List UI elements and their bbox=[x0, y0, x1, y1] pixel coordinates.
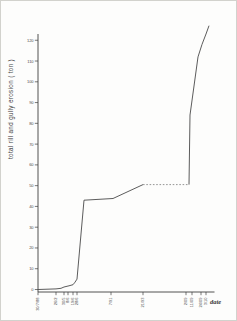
y-tick-label: 80 bbox=[29, 121, 34, 126]
axis-lines bbox=[38, 34, 215, 292]
y-tick-label: 110 bbox=[27, 59, 34, 64]
series-segment-solid bbox=[38, 185, 143, 290]
series-segment-solid bbox=[189, 26, 209, 185]
y-tick-label: 120 bbox=[27, 38, 34, 43]
erosion-line-chart: 0102030405060708090100110120 30/7/8826/2… bbox=[1, 1, 237, 321]
y-tick-label: 30 bbox=[29, 225, 34, 230]
x-tick-date-label: 3/10 bbox=[203, 297, 208, 306]
axes bbox=[38, 34, 215, 292]
y-axis-title: total rill and gully erosion ( ton ) bbox=[7, 59, 15, 159]
y-tick-label: 10 bbox=[29, 266, 34, 271]
y-tick-label: 0 bbox=[31, 287, 34, 292]
y-tick-label: 60 bbox=[29, 162, 34, 167]
x-tick-date-label: 7/91 bbox=[108, 297, 113, 306]
x-tick-date-label: 11/09 bbox=[189, 297, 194, 307]
x-tick-date-label: 2/09 bbox=[183, 297, 188, 306]
scanned-figure-page: 0102030405060708090100110120 30/7/8826/2… bbox=[0, 0, 237, 321]
y-tick-label: 90 bbox=[29, 100, 34, 105]
y-axis-ticks: 0102030405060708090100110120 bbox=[27, 38, 38, 292]
x-tick-date-label: 21/93 bbox=[140, 297, 145, 308]
y-tick-label: 100 bbox=[27, 79, 34, 84]
x-axis-ticks: 30/7/8826/230/58/619/628/67/9121/932/091… bbox=[35, 292, 208, 311]
y-tick-label: 50 bbox=[29, 183, 34, 188]
x-axis-title: date bbox=[210, 298, 221, 305]
x-tick-date-label: 26/2 bbox=[53, 297, 58, 306]
y-tick-label: 20 bbox=[29, 245, 34, 250]
erosion-series-line bbox=[38, 26, 209, 290]
y-tick-label: 70 bbox=[29, 142, 34, 147]
y-tick-label: 40 bbox=[29, 204, 34, 209]
x-tick-date-label: 30/7/88 bbox=[35, 297, 40, 311]
x-tick-date-label: 28/6 bbox=[74, 297, 79, 306]
